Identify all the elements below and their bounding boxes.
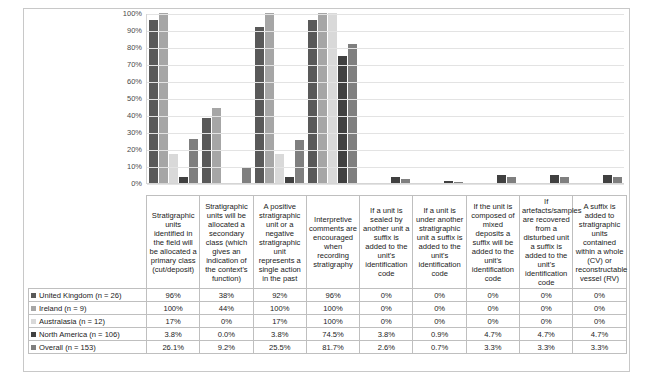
legend-swatch-icon [31,293,36,298]
table-row: Overall (n = 153)26.1%9.2%25.5%81.7%2.6%… [29,341,627,354]
table-cell-value: 0% [520,302,573,315]
gridline [147,167,624,168]
table-cell-value: 0% [573,302,626,315]
y-tick-label: 20% [127,146,142,154]
gridline [147,184,624,185]
table-cell-value: 17% [147,315,200,328]
bar [159,13,168,183]
table-cell-value: 0% [200,315,253,328]
table-cell-value: 3.8% [360,328,413,341]
y-tick-label: 50% [127,95,142,103]
table-cell-value: 9.2% [200,341,253,354]
chart-frame: 0%10%20%30%40%50%60%70%80%90%100% Strati… [23,8,630,372]
table-cell-value: 96% [147,289,200,302]
bar [338,56,347,183]
table-cell-value: 0% [360,315,413,328]
table-cell-value: 0% [466,289,519,302]
bar [391,177,400,183]
y-tick-label: 60% [127,78,142,86]
table-cell-value: 38% [200,289,253,302]
category-label: Stratigraphic units identified in the fi… [147,196,200,289]
table-cell-value: 25.5% [253,341,306,354]
table-cell-value: 0% [413,289,466,302]
data-table: Stratigraphic units identified in the fi… [28,195,627,354]
table-body: Stratigraphic units identified in the fi… [29,196,627,354]
legend-label: Ireland (n = 9) [39,304,87,313]
legend-label: Australasia (n = 12) [39,317,105,326]
table-cell-value: 4.7% [520,328,573,341]
table-cell-value: 100% [253,302,306,315]
bar [169,154,178,183]
y-tick-label: 0% [131,180,142,188]
plot-area: 0%10%20%30%40%50%60%70%80%90%100% [110,12,626,194]
table-cell-value: 3.3% [466,341,519,354]
y-tick-label: 100% [123,10,142,18]
table-cell-value: 3.8% [253,328,306,341]
bar [401,179,410,183]
bar [603,175,612,183]
table-cell-value: 0% [360,302,413,315]
y-tick-label: 70% [127,61,142,69]
bar [497,175,506,183]
table-cell-value: 0% [466,302,519,315]
bar [613,177,622,183]
bar [149,20,158,183]
bar [275,154,284,183]
bar [179,177,188,183]
gridline [147,133,624,134]
category-label: If a unit is sealed by another unit a su… [360,196,413,289]
y-axis-tick-labels: 0%10%20%30%40%50%60%70%80%90%100% [110,12,144,194]
legend-label: Overall (n = 153) [39,343,96,352]
gridline [147,48,624,49]
category-label: If artefacts/samples are recovered from … [520,196,573,289]
table-cell-value: 0% [360,289,413,302]
y-tick-label: 10% [127,163,142,171]
table-cell-value: 100% [147,302,200,315]
bar [285,177,294,183]
legend-entry: United Kingdom (n = 26) [29,289,147,302]
bar [454,182,463,183]
plot-grid [146,14,624,184]
table-cell-value: 3.8% [147,328,200,341]
gridline [147,65,624,66]
table-row: North America (n = 106)3.8%0.0%3.8%74.5%… [29,328,627,341]
legend-entry: Ireland (n = 9) [29,302,147,315]
bar [295,140,304,183]
category-header-row: Stratigraphic units identified in the fi… [29,196,627,289]
bar [560,177,569,183]
table-row: Ireland (n = 9)100%44%100%100%0%0%0%0%0% [29,302,627,315]
legend-entry: Overall (n = 153) [29,341,147,354]
bar [255,27,264,183]
table-cell-value: 0.9% [413,328,466,341]
category-label: Interpretive comments are encouraged whe… [306,196,359,289]
bar [308,20,317,183]
table-cell-value: 81.7% [306,341,359,354]
bar [242,167,251,183]
gridline [147,116,624,117]
table-corner-cell [29,196,147,289]
y-tick-label: 40% [127,112,142,120]
bar [328,13,337,183]
table-cell-value: 4.7% [466,328,519,341]
table-cell-value: 26.1% [147,341,200,354]
table-cell-value: 96% [306,289,359,302]
legend-swatch-icon [31,332,36,337]
bar [318,13,327,183]
table-row: Australasia (n = 12)17%0%17%100%0%0%0%0%… [29,315,627,328]
category-label: If a unit is under another stratigraphic… [413,196,466,289]
legend-swatch-icon [31,345,36,350]
legend-swatch-icon [31,306,36,311]
table-cell-value: 3.3% [520,341,573,354]
bar [265,13,274,183]
bar [507,177,516,183]
legend-label: United Kingdom (n = 26) [39,291,122,300]
table-cell-value: 0.0% [200,328,253,341]
gridline [147,82,624,83]
y-tick-label: 30% [127,129,142,137]
gridline [147,99,624,100]
table-cell-value: 100% [306,315,359,328]
table-cell-value: 0% [413,315,466,328]
y-tick-label: 80% [127,44,142,52]
table-cell-value: 92% [253,289,306,302]
legend-entry: Australasia (n = 12) [29,315,147,328]
